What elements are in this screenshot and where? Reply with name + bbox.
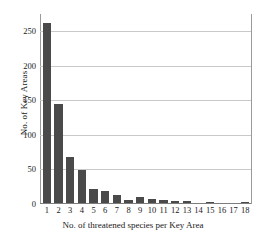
bar-cell — [53, 14, 65, 203]
x-axis-tick-label: 13 — [181, 206, 193, 215]
y-axis-tick-label: 100 — [23, 131, 36, 140]
x-axis-title: No. of threatened species per Key Area — [0, 220, 266, 230]
bar — [113, 195, 121, 203]
bar — [101, 191, 109, 203]
bar-cell — [204, 14, 216, 203]
x-axis-tick-label: 3 — [64, 206, 76, 215]
histogram-figure: No. of Key Areas 050100150200250 1234567… — [0, 0, 266, 240]
y-axis-tick-label: 0 — [32, 200, 36, 209]
bar — [89, 189, 97, 203]
bar-cell — [239, 14, 251, 203]
bar — [54, 104, 62, 203]
y-axis-tick-label: 250 — [23, 27, 36, 36]
y-axis-tick-labels: 050100150200250 — [0, 0, 38, 240]
x-axis-tick-label: 1 — [41, 206, 53, 215]
x-axis-tick-label: 5 — [88, 206, 100, 215]
x-axis-tick-label: 7 — [111, 206, 123, 215]
bar-cell — [134, 14, 146, 203]
x-axis-tick-label: 14 — [193, 206, 205, 215]
x-axis-tick-label: 15 — [204, 206, 216, 215]
x-axis-tick-label: 16 — [216, 206, 228, 215]
bar-cell — [193, 14, 205, 203]
y-axis-tick-label: 200 — [23, 62, 36, 71]
x-axis-tick-label: 12 — [169, 206, 181, 215]
x-axis-tick-label: 8 — [123, 206, 135, 215]
plot-area — [40, 14, 252, 204]
y-axis-tick-label: 150 — [23, 96, 36, 105]
bar-cell — [146, 14, 158, 203]
bar-cell — [169, 14, 181, 203]
bar — [66, 157, 74, 203]
bar-cell — [158, 14, 170, 203]
y-axis-tick-label: 50 — [28, 165, 37, 174]
x-axis-tick-label: 11 — [158, 206, 170, 215]
bar-cell — [64, 14, 76, 203]
bar-series — [41, 14, 251, 203]
x-axis-tick-label: 10 — [146, 206, 158, 215]
x-axis-tick-label: 6 — [99, 206, 111, 215]
bar-cell — [228, 14, 240, 203]
x-axis-tick-label: 18 — [239, 206, 251, 215]
bar — [78, 170, 86, 203]
bar-cell — [123, 14, 135, 203]
bar-cell — [181, 14, 193, 203]
bar-cell — [99, 14, 111, 203]
x-axis-line — [40, 203, 252, 204]
bar-cell — [76, 14, 88, 203]
x-axis-tick-label: 17 — [228, 206, 240, 215]
x-axis-tick-label: 4 — [76, 206, 88, 215]
x-axis-tick-labels: 123456789101112131415161718 — [41, 206, 251, 215]
bar-cell — [41, 14, 53, 203]
x-axis-tick-label: 9 — [134, 206, 146, 215]
bar-cell — [111, 14, 123, 203]
bar — [43, 23, 51, 203]
bar-cell — [88, 14, 100, 203]
bar-cell — [216, 14, 228, 203]
x-axis-tick-label: 2 — [53, 206, 65, 215]
